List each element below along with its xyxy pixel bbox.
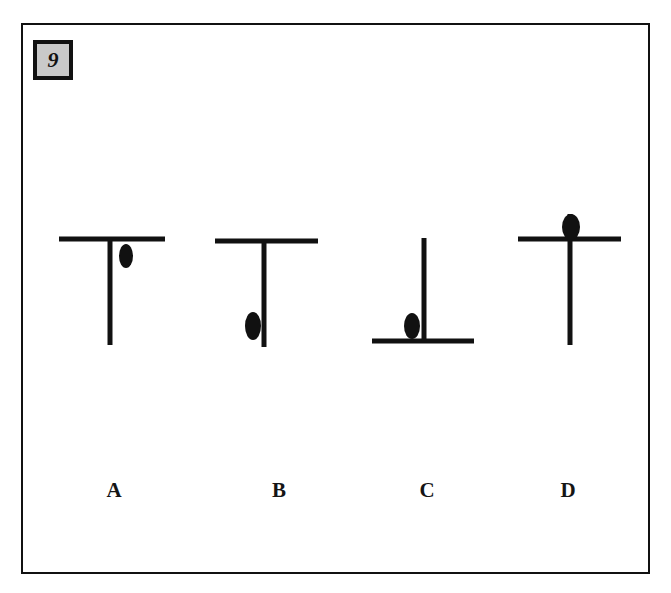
stimulus-a-ellipse — [119, 244, 133, 268]
stimulus-b[interactable] — [215, 241, 318, 347]
stimulus-d-ellipse — [562, 214, 580, 240]
stimulus-b-ellipse — [245, 312, 261, 340]
figure-plate: A B C D 9 — [0, 0, 671, 593]
stimulus-label-a: A — [94, 480, 134, 501]
plate-number-text: 9 — [48, 49, 59, 71]
stimulus-label-d: D — [548, 480, 588, 501]
stimulus-a[interactable] — [59, 239, 165, 345]
stimulus-label-c: C — [407, 480, 447, 501]
plate-number-badge: 9 — [33, 40, 73, 80]
stimulus-c[interactable] — [372, 238, 474, 341]
stimulus-label-b: B — [259, 480, 299, 501]
stimulus-c-ellipse — [404, 313, 420, 339]
plate-frame: A B C D — [21, 23, 650, 574]
stimulus-d[interactable] — [518, 214, 621, 345]
